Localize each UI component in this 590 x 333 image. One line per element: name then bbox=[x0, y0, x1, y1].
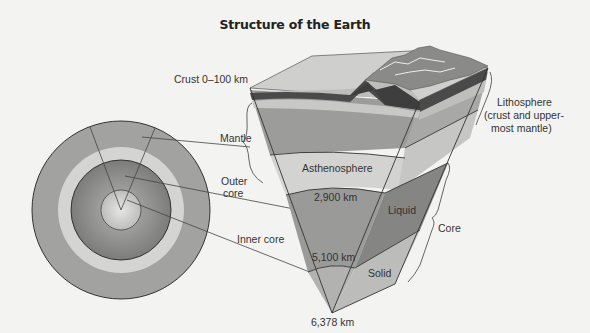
label-outer-core-2: core bbox=[223, 187, 244, 199]
earth-structure-diagram: Crust 0–100 km Mantle Outer core Inner c… bbox=[0, 0, 590, 333]
label-solid: Solid bbox=[368, 267, 392, 279]
label-crust: Crust 0–100 km bbox=[174, 73, 248, 85]
label-depth-6378: 6,378 km bbox=[311, 316, 354, 328]
earth-cross-section bbox=[32, 121, 210, 299]
label-mantle: Mantle bbox=[220, 132, 252, 144]
label-depth-5100: 5,100 km bbox=[312, 251, 355, 263]
label-inner-core: Inner core bbox=[237, 233, 284, 245]
label-liquid: Liquid bbox=[388, 204, 416, 216]
label-depth-2900: 2,900 km bbox=[314, 191, 357, 203]
diagram-canvas: Structure of the Earth bbox=[0, 0, 590, 333]
label-lithosphere-1: Lithosphere bbox=[497, 96, 552, 108]
label-lithosphere-2: (crust and upper- bbox=[484, 109, 564, 121]
label-core: Core bbox=[438, 222, 461, 234]
label-lithosphere-3: most mantle) bbox=[491, 122, 552, 134]
label-outer-core-1: Outer bbox=[221, 175, 248, 187]
label-asthenosphere: Asthenosphere bbox=[302, 162, 373, 174]
